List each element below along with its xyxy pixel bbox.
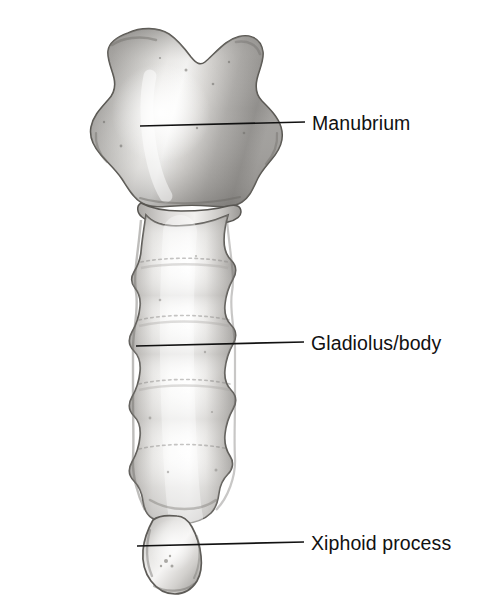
manubrium-shape: [91, 29, 283, 207]
xiphoid-process-shape: [143, 515, 202, 594]
sternum-illustration: [0, 0, 497, 616]
label-gladiolus: Gladiolus/body: [311, 334, 441, 354]
sternum-figure: Manubrium Gladiolus/body Xiphoid process: [0, 0, 497, 616]
label-xiphoid: Xiphoid process: [311, 534, 451, 554]
label-manubrium: Manubrium: [312, 114, 410, 134]
gladiolus-body-shape: [130, 215, 236, 524]
